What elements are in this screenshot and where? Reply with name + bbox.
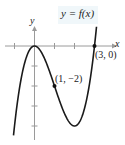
point-2-marker xyxy=(93,44,97,48)
y-axis-label: y xyxy=(30,15,34,26)
point-2-label: (3, 0) xyxy=(95,49,117,60)
x-axis-label: x xyxy=(115,38,119,49)
point-1-label: (1, −2) xyxy=(55,73,82,84)
point-1-marker xyxy=(53,84,57,88)
y-axis-arrow-icon xyxy=(32,26,37,31)
